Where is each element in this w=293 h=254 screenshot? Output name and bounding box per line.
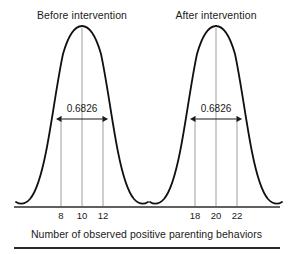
- tick-label-before-10: 10: [71, 210, 93, 221]
- tick-label-before-12: 12: [92, 210, 114, 221]
- panel-title-before: Before intervention: [14, 9, 150, 21]
- probability-label-after: 0.6826: [174, 103, 258, 114]
- tick-label-after-18: 18: [184, 210, 206, 221]
- distribution-plot-svg: [0, 0, 293, 254]
- normal-distribution-figure: Before intervention After intervention 0…: [0, 0, 293, 254]
- x-axis-caption: Number of observed positive parenting be…: [0, 228, 293, 240]
- panel-title-after: After intervention: [150, 9, 282, 21]
- tick-label-after-22: 22: [226, 210, 248, 221]
- tick-label-before-8: 8: [50, 210, 72, 221]
- tick-label-after-20: 20: [205, 210, 227, 221]
- bottom-divider: [14, 247, 280, 249]
- probability-label-before: 0.6826: [40, 103, 124, 114]
